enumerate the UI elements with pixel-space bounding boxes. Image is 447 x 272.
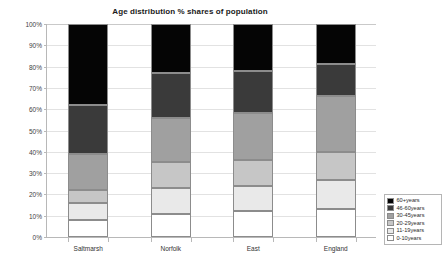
legend-item-label: 20-29years <box>397 220 425 227</box>
legend-item-label: 11-19years <box>397 227 425 234</box>
y-axis-tick-label: 80% <box>29 63 42 70</box>
y-axis-tick-label: 30% <box>29 170 42 177</box>
y-axis-tick-mark <box>44 109 47 110</box>
bar-segment[interactable] <box>316 24 356 64</box>
legend-item-label: 0-10years <box>397 235 422 242</box>
bar-segment[interactable] <box>316 96 356 151</box>
bar-segment[interactable] <box>151 214 191 237</box>
bar-segment[interactable] <box>151 162 191 188</box>
stacked-bar[interactable] <box>68 24 108 237</box>
bar-segment[interactable] <box>233 186 273 212</box>
legend-color-swatch <box>387 235 394 241</box>
bar-segment[interactable] <box>151 24 191 73</box>
bar-segment[interactable] <box>68 154 108 190</box>
x-axis-tick-label: Norfolk <box>160 245 181 252</box>
legend-color-swatch <box>387 205 394 211</box>
legend-item-label: 60+years <box>397 197 420 204</box>
x-axis-tick-mark <box>108 237 109 242</box>
stacked-bar[interactable] <box>316 24 356 237</box>
bar-segment[interactable] <box>316 64 356 96</box>
legend-color-swatch <box>387 220 394 226</box>
bar-segment[interactable] <box>68 105 108 154</box>
y-axis-tick-label: 20% <box>29 191 42 198</box>
bar-segment[interactable] <box>233 71 273 114</box>
legend-color-swatch <box>387 198 394 204</box>
y-axis-tick-label: 100% <box>25 21 42 28</box>
y-axis-tick-mark <box>44 237 47 238</box>
y-axis-tick-label: 70% <box>29 84 42 91</box>
legend-item[interactable]: 46-60years <box>387 205 439 212</box>
x-axis-tick-mark <box>191 237 192 242</box>
legend-item[interactable]: 60+years <box>387 197 439 204</box>
x-axis-tick-mark <box>273 237 274 242</box>
bar-segment[interactable] <box>68 220 108 237</box>
x-axis-tick-mark <box>316 237 317 242</box>
y-axis-tick-label: 50% <box>29 127 42 134</box>
bar-segment[interactable] <box>233 113 273 160</box>
y-axis-tick-label: 0% <box>33 234 42 241</box>
bar-segment[interactable] <box>316 180 356 210</box>
bar-segment[interactable] <box>316 209 356 237</box>
y-axis-tick-mark <box>44 67 47 68</box>
y-axis-tick-label: 10% <box>29 212 42 219</box>
bar-group <box>233 24 273 237</box>
y-axis-tick-mark <box>44 24 47 25</box>
y-axis-tick-label: 40% <box>29 148 42 155</box>
chart-legend: 60+years46-60years30-45years20-29years11… <box>384 194 442 245</box>
stacked-bar[interactable] <box>233 24 273 237</box>
x-axis-tick-label: England <box>324 245 348 252</box>
x-axis-tick-mark <box>233 237 234 242</box>
legend-color-swatch <box>387 213 394 219</box>
chart-title: Age distribution % shares of population <box>0 7 380 16</box>
y-axis-tick-mark <box>44 45 47 46</box>
bar-group <box>316 24 356 237</box>
y-axis-tick-mark <box>44 131 47 132</box>
x-axis-tick-mark <box>68 237 69 242</box>
bar-segment[interactable] <box>151 188 191 214</box>
bar-segment[interactable] <box>68 203 108 220</box>
y-axis-tick-mark <box>44 173 47 174</box>
y-axis-tick-mark <box>44 194 47 195</box>
bar-segment[interactable] <box>233 160 273 186</box>
bar-group <box>151 24 191 237</box>
bar-segment[interactable] <box>316 152 356 180</box>
plot-area: 100%90%80%70%60%50%40%30%20%10%0%Saltmar… <box>46 24 376 238</box>
legend-item[interactable]: 11-19years <box>387 227 439 234</box>
bar-group <box>68 24 108 237</box>
legend-item-label: 30-45years <box>397 212 425 219</box>
bar-segment[interactable] <box>68 190 108 203</box>
stacked-bar[interactable] <box>151 24 191 237</box>
plot-inner: 100%90%80%70%60%50%40%30%20%10%0%Saltmar… <box>47 24 376 237</box>
legend-color-swatch <box>387 228 394 234</box>
bar-segment[interactable] <box>233 24 273 71</box>
y-axis-tick-mark <box>44 216 47 217</box>
x-axis-tick-mark <box>151 237 152 242</box>
legend-item[interactable]: 30-45years <box>387 212 439 219</box>
y-axis-tick-mark <box>44 88 47 89</box>
legend-item[interactable]: 0-10years <box>387 235 439 242</box>
bar-segment[interactable] <box>233 211 273 237</box>
y-axis-tick-mark <box>44 152 47 153</box>
bar-segment[interactable] <box>68 24 108 105</box>
y-axis-tick-label: 90% <box>29 42 42 49</box>
x-axis-tick-mark <box>356 237 357 242</box>
legend-item[interactable]: 20-29years <box>387 220 439 227</box>
bar-segment[interactable] <box>151 118 191 163</box>
chart-container: Age distribution % shares of population … <box>0 0 447 272</box>
x-axis-tick-label: East <box>247 245 260 252</box>
y-axis-tick-label: 60% <box>29 106 42 113</box>
legend-item-label: 46-60years <box>397 205 425 212</box>
x-axis-tick-label: Saltmarsh <box>74 245 103 252</box>
bar-segment[interactable] <box>151 73 191 118</box>
